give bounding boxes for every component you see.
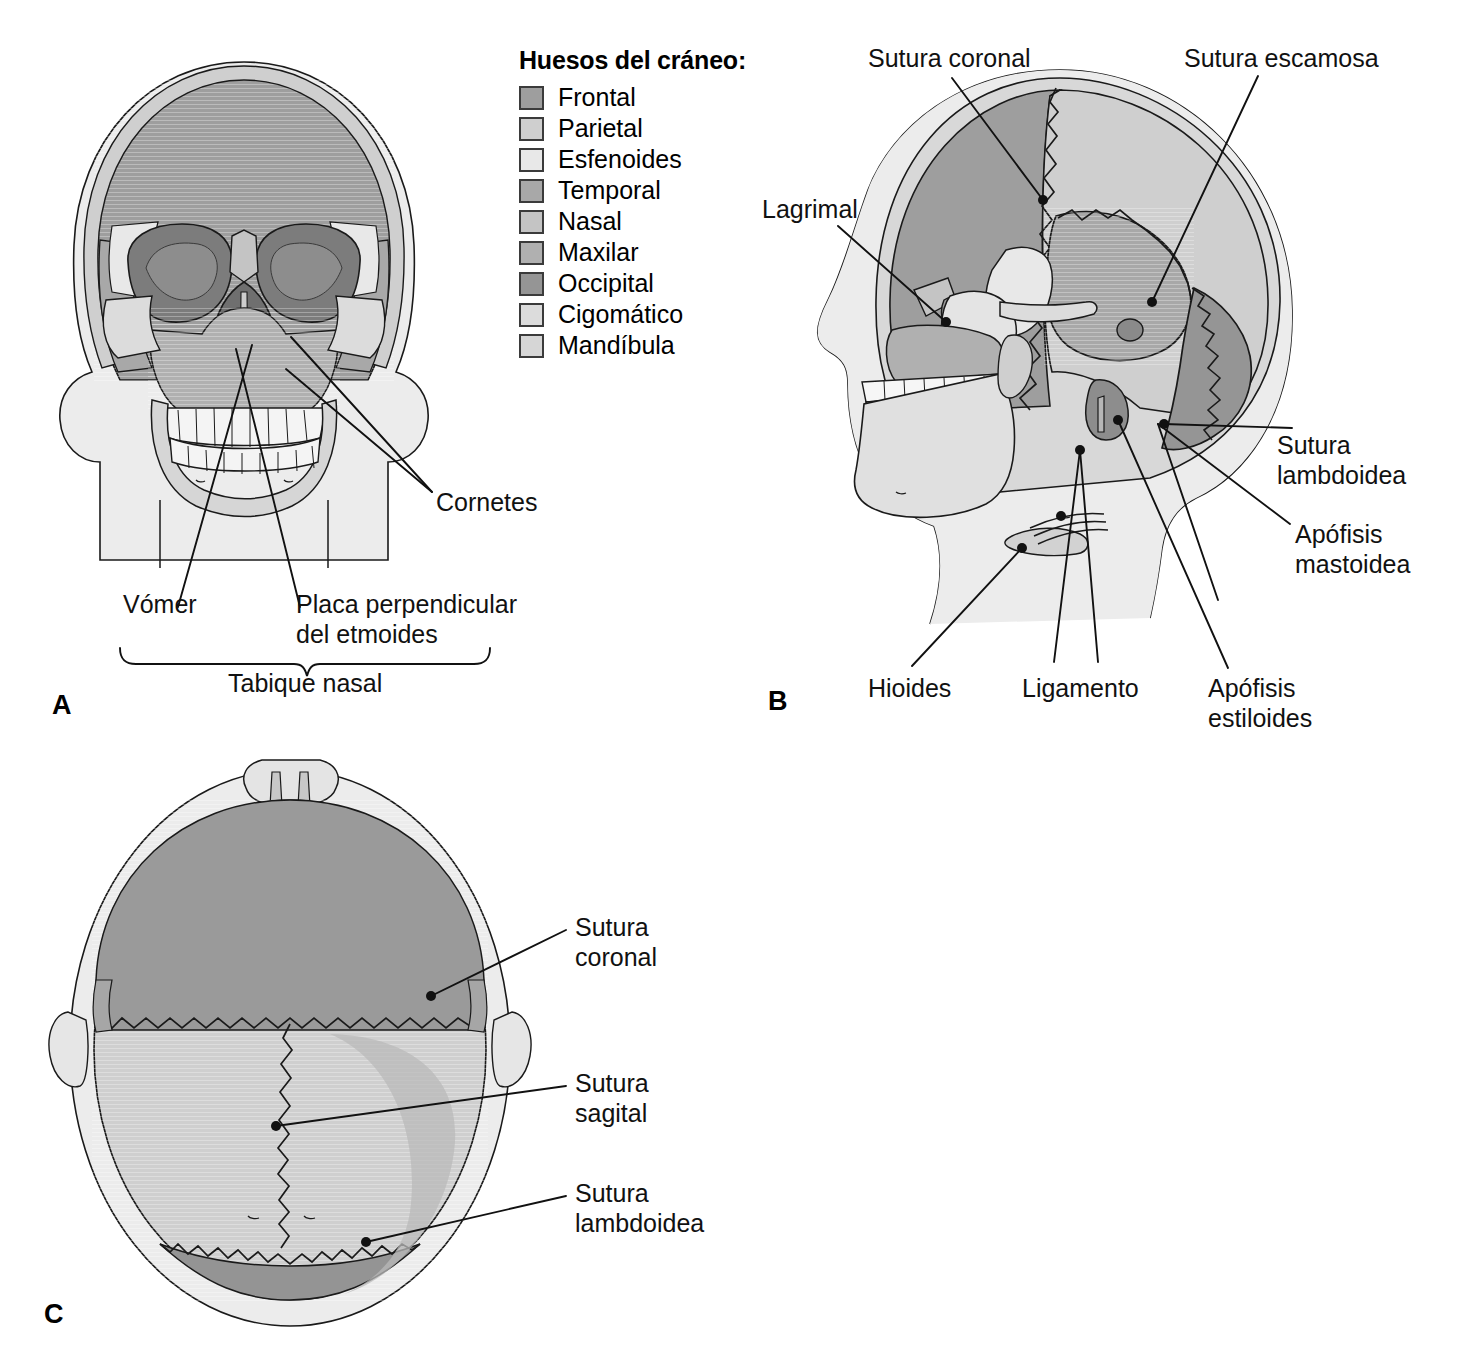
label-sutura-lambdoidea-c-line2: lambdoidea — [575, 1208, 704, 1238]
legend-item-occipital[interactable]: Occipital — [519, 268, 746, 299]
b-styloid-process — [1098, 396, 1104, 432]
legend-swatch-occipital — [519, 272, 544, 296]
legend-swatch-mandibula — [519, 334, 544, 358]
panel-letter-c: C — [44, 1299, 64, 1330]
label-sutura-lambdoidea-c-line1: Sutura — [575, 1178, 649, 1208]
legend-label-maxilar: Maxilar — [558, 238, 639, 267]
legend-label-frontal: Frontal — [558, 83, 636, 112]
label-sutura-escamosa: Sutura escamosa — [1184, 43, 1379, 73]
legend-label-mandibula: Mandíbula — [558, 331, 675, 360]
panel-letter-a: A — [52, 690, 72, 721]
label-ligamento: Ligamento — [1022, 673, 1139, 703]
legend-label-cigomatico: Cigomático — [558, 300, 683, 329]
legend-swatch-maxilar — [519, 241, 544, 265]
legend-label-temporal: Temporal — [558, 176, 661, 205]
label-apofisis-mastoidea-line1: Apófisis — [1295, 519, 1383, 549]
label-apofisis-mastoidea-line2: mastoidea — [1295, 549, 1410, 579]
a-upper-teeth — [162, 408, 326, 446]
legend-item-frontal[interactable]: Frontal — [519, 82, 746, 113]
legend-swatch-nasal — [519, 210, 544, 234]
label-sutura-coronal-c-line2: coronal — [575, 942, 657, 972]
panel-c-skull — [49, 760, 566, 1326]
label-vomer: Vómer — [123, 589, 197, 619]
label-lagrimal: Lagrimal — [762, 194, 858, 224]
label-sutura-sagital-line2: sagital — [575, 1098, 647, 1128]
legend-swatch-frontal — [519, 86, 544, 110]
label-hioides: Hioides — [868, 673, 951, 703]
label-sutura-coronal-c-line1: Sutura — [575, 912, 649, 942]
legend-swatch-parietal — [519, 117, 544, 141]
legend-item-maxilar[interactable]: Maxilar — [519, 237, 746, 268]
legend-swatch-esfenoides — [519, 148, 544, 172]
label-placa-perpendicular-line1: Placa perpendicular — [296, 589, 517, 619]
b-external-acoustic-meatus — [1117, 319, 1143, 341]
a-nasal-bone — [230, 230, 258, 282]
legend-label-nasal: Nasal — [558, 207, 622, 236]
panel-b-skull — [818, 70, 1292, 668]
label-tabique-nasal: Tabique nasal — [228, 668, 382, 698]
label-sutura-lambdoidea-b-line2: lambdoidea — [1277, 460, 1406, 490]
label-sutura-coronal-b: Sutura coronal — [868, 43, 1031, 73]
legend-item-parietal[interactable]: Parietal — [519, 113, 746, 144]
label-cornetes: Cornetes — [436, 487, 537, 517]
c-temporal-right — [468, 980, 487, 1032]
legend-label-occipital: Occipital — [558, 269, 654, 298]
legend-item-nasal[interactable]: Nasal — [519, 206, 746, 237]
c-temporal-left — [93, 980, 112, 1032]
panel-letter-b: B — [768, 686, 788, 717]
legend-title: Huesos del cráneo: — [519, 46, 746, 75]
c-ear-left — [49, 1012, 88, 1087]
label-sutura-sagital-line1: Sutura — [575, 1068, 649, 1098]
label-apofisis-estiloides-line2: estiloides — [1208, 703, 1312, 733]
legend-item-cigomatico[interactable]: Cigomático — [519, 299, 746, 330]
legend-swatch-cigomatico — [519, 303, 544, 327]
label-sutura-lambdoidea-b-line1: Sutura — [1277, 430, 1351, 460]
c-ear-right — [492, 1012, 531, 1087]
legend-item-mandibula[interactable]: Mandíbula — [519, 330, 746, 361]
legend-swatch-temporal — [519, 179, 544, 203]
label-placa-perpendicular-line2: del etmoides — [296, 619, 438, 649]
legend-label-parietal: Parietal — [558, 114, 643, 143]
panel-a-skull — [60, 62, 490, 676]
legend-skull-bones: Huesos del cráneo: Frontal Parietal Esfe… — [519, 46, 746, 361]
label-apofisis-estiloides-line1: Apófisis — [1208, 673, 1296, 703]
legend-item-temporal[interactable]: Temporal — [519, 175, 746, 206]
legend-label-esfenoides: Esfenoides — [558, 145, 682, 174]
figure-skull-bones: Huesos del cráneo: Frontal Parietal Esfe… — [0, 0, 1460, 1364]
legend-item-esfenoides[interactable]: Esfenoides — [519, 144, 746, 175]
